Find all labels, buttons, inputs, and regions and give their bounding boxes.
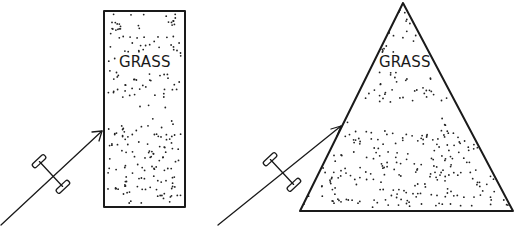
grass-label: GRASS [379, 53, 431, 71]
trajectory-line [1, 131, 102, 225]
grass-label: GRASS [119, 53, 171, 71]
panel-rectangle: GRASS [1, 11, 185, 225]
grass-stipple-tri [303, 9, 509, 208]
grass-stipple-rect [107, 13, 182, 204]
axle-icon [32, 154, 71, 194]
grass-triangle [300, 3, 513, 211]
axle-icon [263, 152, 302, 192]
diagram-canvas: GRASS GRASS [0, 0, 520, 226]
panel-triangle: GRASS [218, 3, 513, 225]
